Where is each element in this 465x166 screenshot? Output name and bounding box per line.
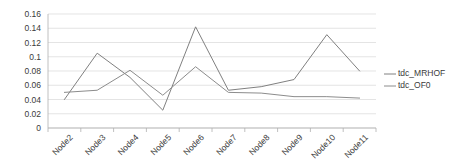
x-tick-label-node7: Node7	[214, 132, 239, 157]
y-axis-labels-group: 00.020.040.060.080.10.120.140.16	[24, 9, 41, 133]
x-tick-label-node9: Node9	[280, 132, 305, 157]
chart-canvas: 00.020.040.060.080.10.120.140.16 Node2No…	[0, 0, 465, 166]
y-tick-label: 0.02	[24, 109, 41, 119]
gridlines-group	[48, 14, 376, 128]
series-line-tdc_MRHOF	[64, 27, 359, 110]
x-tick-label-node11: Node11	[342, 132, 370, 160]
x-tick-label-node4: Node4	[116, 132, 141, 157]
line-chart: 00.020.040.060.080.10.120.140.16 Node2No…	[0, 0, 465, 166]
x-tick-label-node2: Node2	[50, 132, 75, 157]
series-group	[64, 27, 359, 110]
y-tick-label: 0.14	[24, 23, 41, 33]
x-axis-labels-group: Node2Node3Node4Node5Node6Node7Node8Node9…	[50, 132, 370, 160]
y-tick-label: 0.04	[24, 95, 41, 105]
y-tick-label: 0.06	[24, 80, 41, 90]
legend-label-tdc_MRHOF: tdc_MRHOF	[398, 68, 445, 78]
y-tick-label: 0.08	[24, 66, 41, 76]
y-tick-label: 0	[36, 123, 41, 133]
x-tick-label-node10: Node10	[309, 132, 337, 160]
y-tick-label: 0.12	[24, 38, 41, 48]
y-tick-label: 0.16	[24, 9, 41, 19]
y-tick-label: 0.1	[29, 52, 41, 62]
legend-label-tdc_OF0: tdc_OF0	[398, 80, 431, 90]
x-tick-label-node6: Node6	[181, 132, 206, 157]
x-tick-label-node3: Node3	[83, 132, 108, 157]
x-tick-label-node5: Node5	[148, 132, 173, 157]
x-tick-label-node8: Node8	[247, 132, 272, 157]
axis-lines-group	[48, 14, 376, 132]
legend-group: tdc_MRHOFtdc_OF0	[384, 68, 445, 90]
series-line-tdc_OF0	[64, 67, 359, 98]
